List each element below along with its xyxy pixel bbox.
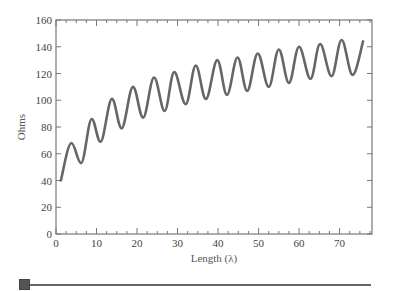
y-tick-label: 80: [41, 121, 53, 133]
impedance-chart: 020406080100120140160 010203040506070 Le…: [0, 0, 393, 275]
x-tick-label: 0: [53, 237, 59, 249]
y-tick-label: 140: [36, 41, 53, 53]
x-tick-label: 50: [253, 237, 265, 249]
x-tick-label: 60: [294, 237, 306, 249]
y-tick-label: 20: [41, 201, 53, 213]
slider-track[interactable]: [25, 284, 371, 286]
position-slider[interactable]: [19, 279, 371, 291]
y-tick-label: 40: [41, 175, 53, 187]
impedance-curve: [61, 40, 363, 180]
y-tick-label: 120: [36, 68, 53, 80]
y-tick-label: 100: [36, 94, 53, 106]
x-tick-label: 20: [132, 237, 144, 249]
y-tick-label: 60: [41, 148, 53, 160]
y-axis-label: Ohms: [15, 114, 27, 140]
x-tick-label: 70: [334, 237, 346, 249]
y-tick-label: 160: [36, 14, 53, 26]
x-tick-label: 10: [91, 237, 103, 249]
x-axis: 010203040506070: [53, 20, 370, 249]
y-tick-label: 0: [47, 228, 53, 240]
x-axis-label: Length (λ): [191, 252, 238, 265]
x-tick-label: 40: [213, 237, 225, 249]
x-tick-label: 30: [172, 237, 184, 249]
slider-handle[interactable]: [19, 279, 30, 290]
